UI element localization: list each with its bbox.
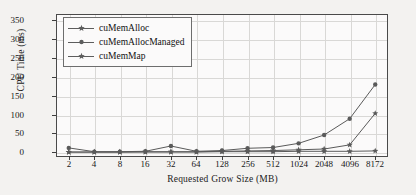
chart-figure: CPU Time (ms) Requested Grow Size (MB) c… <box>0 0 416 195</box>
series-line <box>69 113 375 152</box>
data-point-marker <box>347 148 353 154</box>
data-point-marker <box>373 82 377 86</box>
legend-item-cumemmap[interactable]: cuMemMap <box>68 49 184 63</box>
data-point-marker <box>169 144 173 148</box>
y-tick-mark <box>52 39 56 40</box>
data-point-marker <box>296 141 300 145</box>
legend-marker-circle-icon <box>68 36 94 48</box>
data-point-marker <box>347 116 351 120</box>
y-tick-mark <box>52 152 56 153</box>
y-tick-mark <box>52 115 56 116</box>
legend-marker-star-icon <box>68 22 94 34</box>
legend-label: cuMemAlloc <box>94 23 149 33</box>
y-tick-label: 350 <box>0 16 24 25</box>
y-tick-mark <box>52 77 56 78</box>
y-tick-mark <box>52 58 56 59</box>
data-point-marker <box>372 110 378 116</box>
y-tick-label: 250 <box>0 54 24 63</box>
y-tick-label: 0 <box>0 148 24 157</box>
y-tick-mark <box>52 20 56 21</box>
legend-label: cuMemAllocManaged <box>94 37 184 47</box>
legend-marker-star-icon <box>68 50 94 62</box>
data-point-marker <box>66 149 72 155</box>
y-tick-mark <box>52 133 56 134</box>
legend-item-cumemalloc[interactable]: cuMemAlloc <box>68 21 184 35</box>
y-tick-label: 150 <box>0 92 24 101</box>
y-tick-mark <box>52 96 56 97</box>
y-tick-label: 50 <box>0 129 24 138</box>
y-tick-label: 300 <box>0 35 24 44</box>
legend-label: cuMemMap <box>94 51 145 61</box>
data-point-marker <box>372 148 378 154</box>
chart-legend: cuMemAlloc cuMemAllocManaged cuMemMap <box>63 17 192 67</box>
legend-item-cumemallocmanaged[interactable]: cuMemAllocManaged <box>68 35 184 49</box>
x-tick-label: 8172 <box>355 160 395 169</box>
data-point-marker <box>322 133 326 137</box>
y-tick-label: 100 <box>0 111 24 120</box>
series-line <box>69 85 375 152</box>
y-tick-label: 200 <box>0 73 24 82</box>
